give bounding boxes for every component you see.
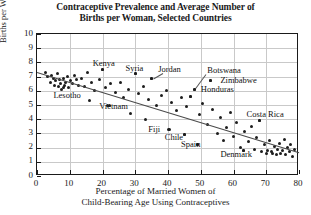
data-point [225,126,228,129]
data-point [114,91,117,94]
y-axis-tick [37,133,41,134]
x-axis-tick [70,170,71,174]
x-axis-tick [299,170,300,174]
data-point [80,77,83,80]
data-point [216,132,219,135]
data-point [211,108,214,111]
x-axis-tick-label: 60 [223,179,243,188]
data-point [260,150,263,153]
data-point [49,81,52,84]
gridline-horizontal [37,148,297,149]
data-point [222,139,225,142]
data-point-labeled [167,128,170,131]
scatter-chart: Contraceptive Prevalence and Average Num… [0,0,311,215]
y-axis-tick [37,119,41,120]
x-axis-tick [135,170,136,174]
data-point [104,86,107,89]
x-axis-tick-label: 20 [92,179,112,188]
data-point [129,112,132,115]
y-axis-tick [37,34,41,35]
y-axis-tick-label: 5 [21,100,33,109]
data-point [284,153,287,156]
page-title: Contraceptive Prevalence and Average Num… [0,2,311,24]
gridline-horizontal [37,162,297,163]
data-point [86,71,89,74]
x-axis-tick [37,170,38,174]
gridline-vertical [70,34,71,174]
y-axis-tick-label: 2 [21,142,33,151]
data-point [175,109,178,112]
x-axis-tick [168,170,169,174]
x-axis-tick-label: 50 [190,179,210,188]
data-point [291,155,294,158]
gridline-vertical [135,34,136,174]
data-point [281,149,284,152]
y-axis-tick-label: 9 [21,43,33,52]
chart-title-line-1: Contraceptive Prevalence and Average Num… [0,2,311,13]
data-point [142,85,145,88]
data-point [73,74,76,77]
data-point [88,99,91,102]
data-point [229,111,232,114]
annotation-label: Syria [125,64,143,73]
annotation-label: Lesotho [53,91,80,100]
data-point [185,105,188,108]
data-point-labeled [183,133,186,136]
annotation-label: Fiji [148,125,160,134]
y-axis-tick [37,48,41,49]
data-point [283,138,286,141]
data-point [279,152,282,155]
data-point [155,104,158,107]
data-point [119,81,122,84]
data-point [54,79,57,82]
data-point [278,142,281,145]
data-point [59,82,62,85]
data-point [250,125,253,128]
y-axis-tick-label: 3 [21,128,33,137]
data-point [56,72,59,75]
y-axis-tick-label: 4 [21,114,33,123]
annotation-label: Denmark [220,150,252,159]
y-axis-tick-label: 10 [21,29,33,38]
data-point-labeled [189,95,192,98]
data-point [147,98,150,101]
annotation-label: Jordan [158,65,181,74]
data-point [75,78,78,81]
plot-area: KenyaSyriaJordanBotswanaZimbabweHonduras… [36,33,298,175]
y-axis-tick-label: 6 [21,85,33,94]
data-point-labeled [134,72,137,75]
data-point [180,96,183,99]
data-point [289,143,292,146]
data-point [247,140,250,143]
data-point [144,118,147,121]
annotation-label: Spain [181,140,200,149]
data-point [268,139,271,142]
y-axis-tick [37,176,41,177]
y-axis-tick [37,162,41,163]
data-point [160,94,163,97]
data-point [98,78,101,81]
y-axis-tick-label: 8 [21,57,33,66]
annotation-label: Vietnam [99,102,128,111]
y-axis-tick [37,77,41,78]
data-point [137,92,140,95]
x-axis-tick [266,170,267,174]
data-point [265,152,268,155]
y-axis-title: Births per Woman [0,0,8,62]
data-point-labeled [209,79,212,82]
data-point [275,153,278,156]
data-point [201,102,204,105]
annotation-label: Honduras [201,85,234,94]
x-axis-tick-label: 40 [157,179,177,188]
x-axis-tick [103,170,104,174]
data-point [271,152,274,155]
gridline-horizontal [37,105,297,106]
annotation-label: Costa Rica [247,110,284,119]
data-point [90,81,93,84]
data-point [170,101,173,104]
data-point-labeled [193,88,196,91]
x-axis-tick [201,170,202,174]
data-point [235,121,238,124]
x-axis-title: Percentage of Married Women of Child-Bea… [0,186,311,207]
x-axis-tick-label: 10 [59,179,79,188]
